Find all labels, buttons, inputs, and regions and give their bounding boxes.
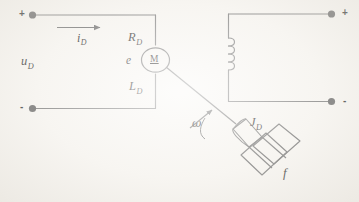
schematic-drawing [0, 0, 359, 202]
field-coil-icon [229, 38, 235, 70]
label-friction: f [283, 166, 287, 179]
label-angular-speed: ω [192, 118, 201, 130]
terminal-dot-negative-armature [29, 105, 36, 112]
terminal-sign-positive-armature: + [19, 9, 25, 19]
terminal-sign-negative-field: - [343, 96, 346, 106]
terminal-dot-positive-armature [29, 11, 36, 18]
label-back-emf: e [126, 55, 131, 67]
label-supply-voltage: uD [21, 55, 34, 71]
terminal-sign-positive-field: + [342, 8, 348, 18]
terminal-dot-positive-field [328, 10, 335, 17]
motor-shaft-line [166, 67, 236, 124]
label-inertia: JD [250, 116, 262, 132]
label-armature-current: iD [77, 32, 87, 47]
terminal-sign-negative-armature: - [20, 102, 23, 112]
field-terminals [328, 10, 335, 105]
figure-canvas: uD iD RD LD e M + - + - ω JD f [0, 0, 359, 202]
terminal-dot-negative-field [328, 98, 335, 105]
label-armature-inductance: LD [129, 80, 142, 96]
field-loop-wires [229, 14, 330, 102]
label-armature-resistance: RD [128, 31, 142, 47]
motor-symbol-letter: M [150, 55, 159, 65]
